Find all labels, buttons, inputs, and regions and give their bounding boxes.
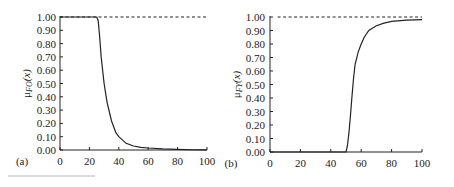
x-tick-label: 80 xyxy=(386,157,398,169)
y-tick-label: 1.00 xyxy=(37,11,57,23)
y-tick-label: 0.60 xyxy=(246,65,266,77)
y-tick-label: 0.50 xyxy=(246,79,266,91)
x-tick-label: 100 xyxy=(199,155,216,167)
x-tick-label: 40 xyxy=(113,155,125,167)
x-tick-label: 20 xyxy=(84,155,96,167)
y-tick-label: 0.50 xyxy=(37,78,57,90)
x-tick-label: 0 xyxy=(267,157,273,169)
panel-label: (a) xyxy=(16,155,29,168)
membership-curve xyxy=(270,20,422,152)
membership-curve xyxy=(60,17,207,150)
y-tick-label: 0.20 xyxy=(37,117,57,129)
x-tick-label: 20 xyxy=(295,157,307,169)
x-tick-label: 60 xyxy=(356,157,368,169)
y-tick-label: 0.90 xyxy=(246,25,266,37)
y-tick-label: 0.10 xyxy=(37,131,57,143)
x-tick-label: 80 xyxy=(172,155,184,167)
y-tick-label: 0.00 xyxy=(37,144,57,156)
y-tick-label: 0.90 xyxy=(37,24,57,36)
y-tick-label: 0.30 xyxy=(246,106,266,118)
y-tick-label: 0.70 xyxy=(37,51,57,63)
y-tick-label: 0.70 xyxy=(246,52,266,64)
figure-canvas: 0.000.100.200.300.400.500.600.700.800.90… xyxy=(0,0,454,187)
y-tick-label: 0.40 xyxy=(246,92,266,104)
y-tick-label: 0.40 xyxy=(37,91,57,103)
panel-a-chart: 0.000.100.200.300.400.500.600.700.800.90… xyxy=(16,11,216,168)
y-tick-label: 0.00 xyxy=(246,146,266,158)
y-axis-label: μFY(x) xyxy=(230,70,244,98)
y-tick-label: 0.30 xyxy=(37,104,57,116)
y-tick-label: 0.80 xyxy=(37,38,57,50)
x-tick-label: 60 xyxy=(143,155,155,167)
y-tick-label: 0.10 xyxy=(246,133,266,145)
y-tick-label: 0.60 xyxy=(37,64,57,76)
y-tick-label: 0.20 xyxy=(246,119,266,131)
y-tick-label: 0.80 xyxy=(246,38,266,50)
x-tick-label: 40 xyxy=(325,157,337,169)
x-tick-label: 0 xyxy=(57,155,63,167)
x-tick-label: 100 xyxy=(414,157,431,169)
panel-b-chart: 0.000.100.200.300.400.500.600.700.800.90… xyxy=(225,11,431,170)
panel-label: (b) xyxy=(225,157,238,170)
y-tick-label: 1.00 xyxy=(246,11,266,23)
y-axis-label: μFO(x) xyxy=(20,69,34,98)
